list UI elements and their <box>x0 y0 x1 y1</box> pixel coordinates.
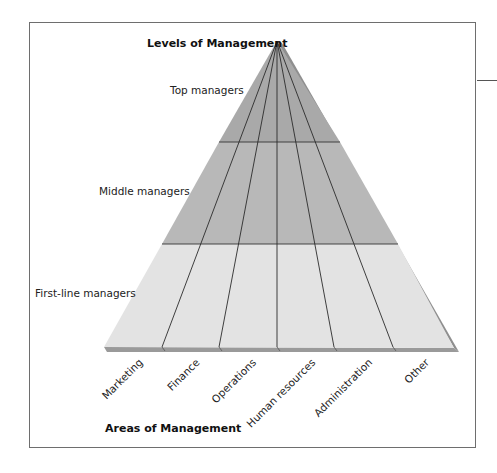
areas-title: Areas of Management <box>105 422 241 435</box>
levels-title: Levels of Management <box>147 37 287 50</box>
level-label-first-line: First-line managers <box>35 287 136 299</box>
management-pyramid <box>0 0 497 473</box>
tier-middle-managers <box>162 142 398 244</box>
level-label-middle: Middle managers <box>99 185 190 197</box>
tier-first-line-managers <box>104 244 454 348</box>
level-label-top: Top managers <box>170 84 244 96</box>
